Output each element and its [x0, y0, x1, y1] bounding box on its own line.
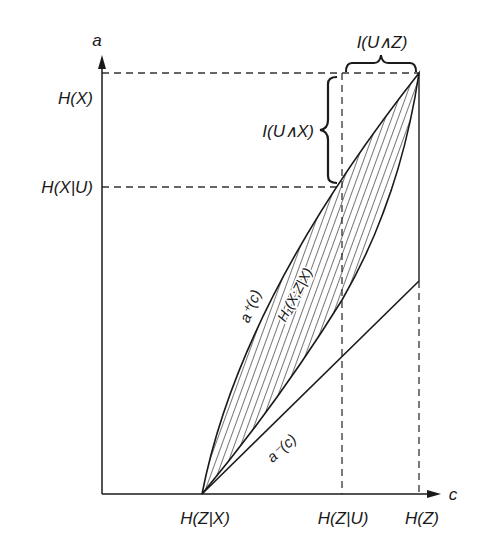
y-axis-label: a — [92, 31, 101, 50]
tick-label-hzu: H(Z|U) — [318, 509, 369, 528]
rate-region-diagram: a c H(X) H(X|U) H(Z|X) H(Z|U) H(Z) I(U∧Z… — [0, 0, 485, 553]
tick-label-hzx: H(Z|X) — [180, 509, 230, 528]
vertical-brace-icon — [320, 77, 337, 183]
x-axis-label: c — [449, 485, 458, 504]
tick-label-hx: H(X) — [58, 89, 93, 108]
tick-label-hz: H(Z) — [405, 509, 439, 528]
tick-label-hxu: H(X|U) — [41, 178, 93, 197]
a-minus-label: a⁻(c) — [263, 430, 300, 465]
brace-label-iuz: I(U∧Z) — [357, 33, 408, 52]
a-plus-label: a⁺(c) — [236, 287, 264, 325]
horizontal-brace-icon — [346, 55, 416, 72]
y-axis-arrow-icon — [98, 55, 106, 69]
x-axis-arrow-icon — [427, 490, 441, 498]
brace-label-iux: I(U∧X) — [262, 122, 314, 141]
